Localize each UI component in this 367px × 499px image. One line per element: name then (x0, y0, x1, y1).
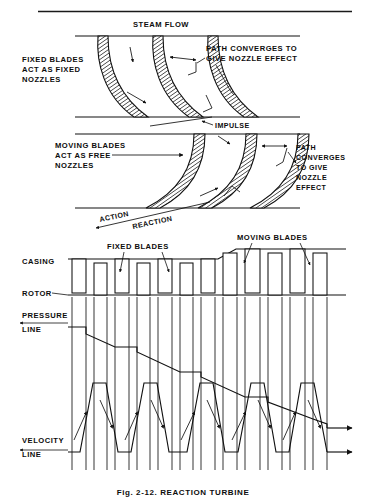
steam-flow-title: STEAM FLOW (133, 20, 189, 29)
converges-mid-line-1: PATH (296, 144, 316, 152)
velocity-label-line-1: VELOCITY (22, 436, 64, 445)
section-moving-blade-4 (223, 253, 237, 295)
fixed-blade-1 (98, 36, 148, 117)
moving-caption-line-1: MOVING BLADES (55, 141, 126, 150)
converges-mid-line-3: TO GIVE (296, 164, 328, 172)
converges-mid-line-5: EFFECT (296, 184, 327, 192)
fixed-caption-line-2: ACT AS FIXED (22, 65, 80, 74)
section-fixed-blade-2 (115, 259, 129, 293)
impulse-leader (202, 121, 213, 125)
section-fixed-blade-3 (158, 259, 172, 293)
rotor-label: ROTOR (22, 289, 52, 298)
section-moving-blade-6 (313, 253, 327, 295)
figure-root: STEAM FLOW FIXED BLADES ACT AS FIXED NOZ… (0, 0, 367, 499)
path-converges-caption-top: PATH CONVERGES TO GIVE NOZZLE EFFECT (206, 44, 297, 63)
fixed-flow-arrow-1 (130, 47, 133, 62)
action-label: ACTION (99, 210, 130, 224)
fixed-blades-section-label: FIXED BLADES (107, 242, 169, 251)
converges-top-leader-1 (197, 58, 205, 63)
fixed-caption-line-3: NOZZLES (22, 75, 61, 84)
moving-blades-caption: MOVING BLADES ACT AS FREE NOZZLES (55, 141, 126, 170)
casing-label: CASING (22, 257, 55, 266)
reaction-label: REACTION (132, 215, 173, 231)
moving-blade-2 (198, 134, 257, 208)
fixed-blades-caption: FIXED BLADES ACT AS FIXED NOZZLES (22, 55, 84, 84)
fixed-convergence-tick-lower (203, 95, 212, 112)
moving-convergence-tick (276, 148, 287, 166)
velocity-line-caption: VELOCITY LINE (22, 436, 64, 459)
converges-top-line-1: PATH CONVERGES TO (206, 44, 297, 53)
section-fixed-blade-4 (201, 259, 215, 293)
velocity-direction-arrows (74, 400, 320, 440)
converges-mid-line-2: CONVERGES (296, 154, 345, 162)
moving-caption-line-2: ACT AS FREE (55, 151, 111, 160)
section-fixed-blade-6 (290, 249, 305, 293)
section-moving-blade-5 (268, 253, 282, 295)
velocity-label-line-2: LINE (22, 450, 41, 459)
fixed-caption-line-1: FIXED BLADES (22, 55, 84, 64)
pressure-line-caption: PRESSURE LINE (22, 311, 68, 334)
section-moving-blade-2 (137, 263, 150, 295)
section-moving-blade-1 (94, 263, 107, 295)
section-fixed-blade-1 (72, 259, 86, 293)
reaction-turbine-diagram: STEAM FLOW FIXED BLADES ACT AS FIXED NOZ… (0, 0, 367, 499)
section-moving-blade-3 (180, 263, 193, 295)
moving-flow-arrow-2 (200, 188, 218, 196)
path-converges-caption-mid: PATH CONVERGES TO GIVE NOZZLE EFFECT (296, 144, 345, 192)
converges-mid-line-4: NOZZLE (296, 174, 327, 182)
moving-flow-arrow-1 (218, 136, 230, 144)
moving-blades-section-label: MOVING BLADES (237, 233, 308, 242)
moving-blade-group (146, 134, 309, 208)
converges-top-line-2: GIVE NOZZLE EFFECT (206, 54, 297, 63)
pressure-label-line-2: LINE (22, 325, 41, 334)
impulse-label: IMPULSE (215, 122, 250, 130)
fixed-convergence-arrow-upper (170, 57, 196, 60)
moving-caption-line-3: NOZZLES (55, 161, 94, 170)
moving-blade-1 (146, 134, 205, 208)
figure-caption: Fig. 2-12. REACTION TURBINE (117, 488, 250, 497)
rotor-leader (52, 293, 68, 295)
section-blades (72, 249, 327, 295)
pressure-label-line-1: PRESSURE (22, 311, 68, 320)
fixed-blade-2 (153, 36, 203, 117)
fixed-convergence-tick (188, 62, 196, 75)
